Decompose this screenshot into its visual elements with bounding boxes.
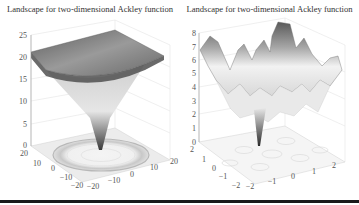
svg-text:3: 3 xyxy=(192,97,196,106)
svg-text:−2: −2 xyxy=(232,181,241,190)
svg-text:20: 20 xyxy=(170,157,178,166)
svg-text:1: 1 xyxy=(192,124,196,133)
svg-text:8: 8 xyxy=(192,29,196,38)
svg-text:2: 2 xyxy=(192,110,196,119)
svg-text:4: 4 xyxy=(192,83,196,92)
svg-text:25: 25 xyxy=(19,31,27,40)
svg-text:−1: −1 xyxy=(268,177,277,186)
svg-text:15: 15 xyxy=(19,75,27,84)
bottom-rule xyxy=(0,200,359,203)
svg-text:−20: −20 xyxy=(71,181,84,190)
z-tick-labels: 8 7 6 5 4 3 2 1 0 xyxy=(192,29,196,147)
svg-text:5: 5 xyxy=(192,69,196,78)
surface-plot-left: 25 20 15 10 5 0 20 10 0 −10 −20 −20 −10 … xyxy=(0,0,180,190)
svg-text:2: 2 xyxy=(190,145,194,154)
svg-text:1: 1 xyxy=(202,155,206,164)
svg-text:0: 0 xyxy=(130,170,134,179)
svg-text:0: 0 xyxy=(212,164,216,173)
svg-text:10: 10 xyxy=(19,97,27,106)
svg-text:20: 20 xyxy=(19,53,27,62)
svg-text:1: 1 xyxy=(312,167,316,176)
svg-text:−10: −10 xyxy=(108,176,121,185)
chart-panel-left: Landscape for two-dimensional Ackley fun… xyxy=(0,0,180,190)
svg-text:10: 10 xyxy=(33,159,41,168)
svg-text:6: 6 xyxy=(192,56,196,65)
svg-text:0: 0 xyxy=(51,164,55,173)
svg-text:−20: −20 xyxy=(87,182,100,190)
chart-panel-right: Landscape for two-dimensional Ackley fun… xyxy=(180,0,359,190)
svg-text:2: 2 xyxy=(332,161,336,170)
svg-text:7: 7 xyxy=(192,43,196,52)
svg-text:20: 20 xyxy=(20,149,28,158)
surface-plot-right: 8 7 6 5 4 3 2 1 0 2 1 0 −1 −2 −2 −1 0 1 … xyxy=(180,0,359,190)
z-tick-labels: 25 20 15 10 5 0 xyxy=(19,31,27,150)
svg-text:0: 0 xyxy=(291,172,295,181)
svg-text:10: 10 xyxy=(150,163,158,172)
svg-text:5: 5 xyxy=(23,120,27,129)
svg-text:−1: −1 xyxy=(219,172,228,181)
svg-text:−2: −2 xyxy=(246,182,255,190)
